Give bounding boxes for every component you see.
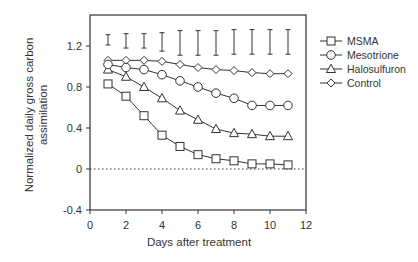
diamond-marker-icon — [248, 69, 256, 77]
x-tick-label: 0 — [87, 219, 93, 231]
x-tick-label: 12 — [300, 219, 312, 231]
circle-marker-icon — [122, 63, 131, 72]
diamond-marker-icon — [284, 70, 292, 78]
legend-label: Halosulfuron — [347, 63, 406, 75]
diamond-marker-icon — [212, 66, 220, 74]
error-bar — [178, 31, 183, 56]
circle-marker-icon — [140, 65, 149, 74]
legend-item-control: Control — [320, 77, 381, 89]
axes: -0.400.40.81.2024681012 — [63, 15, 312, 231]
circle-marker-icon — [327, 51, 336, 60]
series-control — [104, 56, 292, 77]
y-axis-title-line1: Normalized daily gross carbon — [23, 38, 35, 193]
square-marker-icon — [212, 155, 220, 163]
y-tick-label: 0 — [76, 163, 82, 175]
square-marker-icon — [284, 161, 292, 169]
triangle-marker-icon — [176, 106, 185, 114]
y-tick-label: -0.4 — [63, 204, 82, 216]
legend-item-mesotrione: Mesotrione — [320, 49, 399, 61]
legend-label: MSMA — [347, 35, 379, 47]
error-bar — [106, 35, 111, 45]
diamond-marker-icon — [266, 70, 274, 78]
line-chart: -0.400.40.81.2024681012 MSMAMesotrioneHa… — [0, 0, 418, 262]
diamond-marker-icon — [230, 67, 238, 75]
triangle-marker-icon — [284, 131, 293, 139]
series-line — [108, 70, 288, 137]
triangle-marker-icon — [327, 64, 336, 72]
legend: MSMAMesotrioneHalosulfuronControl — [320, 35, 406, 89]
data-series — [104, 56, 293, 169]
error-bar — [196, 31, 201, 56]
error-bars — [106, 30, 291, 56]
square-marker-icon — [104, 80, 112, 88]
x-tick-label: 6 — [195, 219, 201, 231]
error-bar — [142, 34, 147, 48]
circle-marker-icon — [176, 77, 185, 86]
legend-item-halosulfuron: Halosulfuron — [320, 63, 406, 75]
x-tick-label: 10 — [264, 219, 276, 231]
error-bar — [160, 33, 165, 51]
error-bar — [268, 30, 273, 55]
triangle-marker-icon — [194, 115, 203, 123]
square-marker-icon — [248, 160, 256, 168]
circle-marker-icon — [212, 89, 221, 98]
y-tick-label: 0.8 — [67, 81, 82, 93]
square-marker-icon — [194, 151, 202, 159]
square-marker-icon — [230, 157, 238, 165]
circle-marker-icon — [104, 60, 113, 69]
circle-marker-icon — [158, 70, 167, 79]
y-tick-label: 0.4 — [67, 122, 82, 134]
x-tick-label: 2 — [123, 219, 129, 231]
y-tick-label: 1.2 — [67, 40, 82, 52]
diamond-marker-icon — [327, 79, 335, 87]
triangle-marker-icon — [212, 124, 221, 132]
circle-marker-icon — [266, 101, 275, 110]
circle-marker-icon — [230, 94, 239, 103]
square-marker-icon — [158, 131, 166, 139]
diamond-marker-icon — [140, 56, 148, 64]
x-axis-title: Days after treatment — [147, 236, 252, 248]
square-marker-icon — [266, 160, 274, 168]
circle-marker-icon — [194, 83, 203, 92]
legend-label: Mesotrione — [347, 49, 399, 61]
error-bar — [286, 30, 291, 55]
legend-label: Control — [347, 77, 381, 89]
error-bar — [250, 30, 255, 55]
triangle-marker-icon — [122, 72, 131, 80]
legend-item-msma: MSMA — [320, 35, 379, 47]
error-bar — [214, 31, 219, 56]
square-marker-icon — [176, 142, 184, 150]
y-axis-title-line2: assimilation — [37, 85, 49, 145]
circle-marker-icon — [284, 101, 293, 110]
error-bar — [232, 30, 237, 55]
square-marker-icon — [122, 92, 130, 100]
triangle-marker-icon — [158, 93, 167, 101]
x-tick-label: 4 — [159, 219, 165, 231]
diamond-marker-icon — [176, 60, 184, 68]
series-msma — [104, 80, 292, 169]
diamond-marker-icon — [194, 64, 202, 72]
circle-marker-icon — [248, 101, 257, 110]
square-marker-icon — [140, 112, 148, 120]
triangle-marker-icon — [140, 82, 149, 90]
x-tick-label: 8 — [231, 219, 237, 231]
diamond-marker-icon — [158, 57, 166, 65]
error-bar — [124, 34, 129, 48]
square-marker-icon — [327, 37, 335, 45]
